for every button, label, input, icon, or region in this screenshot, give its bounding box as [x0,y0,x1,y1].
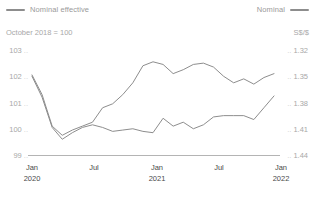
legend-nominal: Nominal [257,5,309,14]
y-axis-tick-right-3: .. 1.41 [284,125,308,134]
x-axis-tick-1: Jul [89,162,99,173]
x-axis-tick-3: Jul [214,162,224,173]
plot-area [28,44,280,156]
legend-label-nominal: Nominal [257,5,285,14]
series-line-nominal [32,62,274,136]
series-svg [28,44,280,156]
legend-label-nominal-effective: Nominal effective [30,5,89,14]
y-axis-tick-left-1: 102 .. [7,72,28,81]
y-axis-tick-left-2: 101 .. [7,99,28,108]
line-swatch-icon [6,9,25,11]
x-axis-tick-0: Jan2020 [24,162,41,184]
line-swatch-icon [290,9,309,11]
y-axis-tick-right-0: .. 1.32 [284,46,308,55]
right-axis-unit-label: S$/$ [294,28,309,37]
y-axis-tick-right-4: .. 1.44 [284,151,308,160]
y-axis-tick-left-3: 100 .. [7,125,28,134]
y-axis-tick-left-4: 99 .. [7,151,28,160]
x-axis-tick-2: Jan2021 [149,162,166,184]
series-line-nominal-effective [32,76,274,139]
y-axis-tick-left-0: 103 .. [7,46,28,55]
x-axis-tick-4: Jan2022 [273,162,290,184]
y-axis-tick-right-2: .. 1.38 [284,99,308,108]
chart-container: Nominal effective Nominal October 2018 =… [0,0,315,200]
y-axis-tick-right-1: .. 1.35 [284,72,308,81]
x-axis-line [28,155,280,156]
left-axis-unit-label: October 2018 = 100 [6,28,73,37]
legend-nominal-effective: Nominal effective [6,5,89,14]
